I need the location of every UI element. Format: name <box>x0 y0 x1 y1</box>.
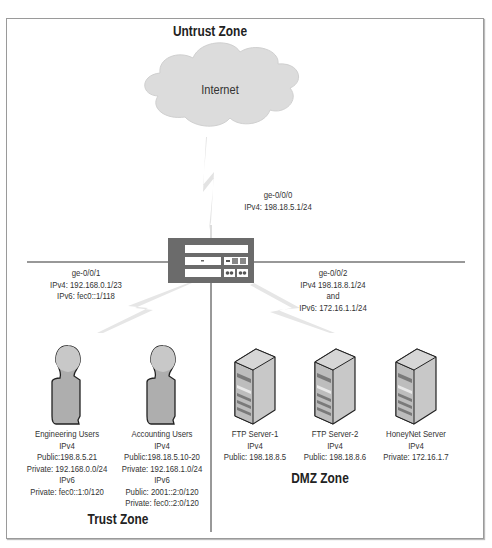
trust-interface-ipv6: IPv6: fec0::1/118 <box>45 290 127 302</box>
user-detail: Public:198.8.5.21 <box>26 451 108 463</box>
user-name: Accounting Users <box>121 428 203 440</box>
untrust-interface-name: ge-0/0/0 <box>237 189 319 201</box>
firewall-device-icon[interactable] <box>168 238 254 283</box>
server-detail: IPv4 <box>375 440 457 452</box>
trust-interface-label: ge-0/0/1 IPv4: 192.168.0.1/23 IPv6: fec0… <box>36 267 136 302</box>
dmz-interface-name: ge-0/0/2 <box>292 267 374 279</box>
accounting-users-label: Accounting Users IPv4 Public:198.18.5.10… <box>112 428 212 509</box>
server-detail: Private: 172.16.1.7 <box>375 451 457 463</box>
engineering-users-label: Engineering Users IPv4 Public:198.8.5.21… <box>17 428 117 497</box>
dmz-interface-ipv4: IPv4 198.18.8.1/24 <box>292 279 374 291</box>
server-name: FTP Server-1 <box>214 428 296 440</box>
user-detail: IPv6 <box>121 474 203 486</box>
internet-label: Internet <box>186 82 254 97</box>
dmz-interface-ipv6: IPv6: 172.16.1.1/24 <box>292 302 374 314</box>
user-detail: IPv4 <box>121 440 203 452</box>
server-name: HoneyNet Server <box>375 428 457 440</box>
ftp-server-1-icon[interactable] <box>235 349 275 424</box>
user-detail: Private: fec0::1:0/120 <box>26 486 108 498</box>
dmz-interface-label: ge-0/0/2 IPv4 198.18.8.1/24 and IPv6: 17… <box>283 267 383 313</box>
user-detail: Private: fec0::2:0/120 <box>121 497 203 509</box>
user-detail: IPv4 <box>26 440 108 452</box>
honeynet-server-icon[interactable] <box>396 349 436 424</box>
wan-link-bolt-icon <box>203 137 214 230</box>
trust-interface-name: ge-0/0/1 <box>45 267 127 279</box>
untrust-zone-title: Untrust Zone <box>159 23 261 39</box>
ftp-server-2-icon[interactable] <box>315 349 355 424</box>
user-detail: Private: 192.168.1.0/24 <box>121 463 203 475</box>
untrust-interface-ipv4: IPv4: 198.18.5.1/24 <box>237 201 319 213</box>
server-detail: IPv4 <box>294 440 376 452</box>
dmz-interface-and: and <box>292 290 374 302</box>
server-detail: IPv4 <box>214 440 296 452</box>
untrust-interface-label: ge-0/0/0 IPv4: 198.18.5.1/24 <box>228 189 328 212</box>
server-detail: Public: 198.18.8.6 <box>294 451 376 463</box>
user-detail: Private: 192.168.0.0/24 <box>26 463 108 475</box>
accounting-users-person-icon[interactable] <box>147 346 175 424</box>
trust-zone-title: Trust Zone <box>67 511 169 527</box>
user-detail: Public: 2001::2:0/120 <box>121 486 203 498</box>
server-name: FTP Server-2 <box>294 428 376 440</box>
trust-interface-ipv4: IPv4: 192.168.0.1/23 <box>45 279 127 291</box>
dmz-zone-title: DMZ Zone <box>269 470 371 486</box>
user-name: Engineering Users <box>26 428 108 440</box>
honeynet-server-label: HoneyNet Server IPv4 Private: 172.16.1.7 <box>366 428 466 463</box>
engineering-users-person-icon[interactable] <box>52 346 80 424</box>
server-detail: Public: 198.18.8.5 <box>214 451 296 463</box>
user-detail: Public:198.18.5.10-20 <box>121 451 203 463</box>
user-detail: IPv6 <box>26 474 108 486</box>
